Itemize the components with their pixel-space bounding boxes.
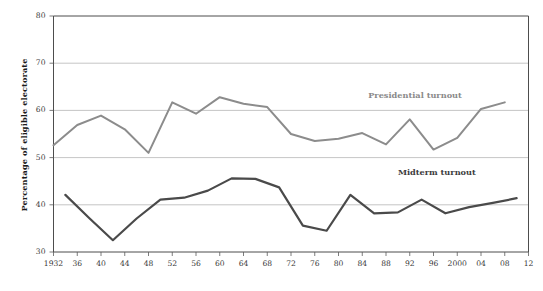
y-tick-label: 30 <box>22 247 46 256</box>
y-tick-label: 70 <box>22 58 46 67</box>
plot-area <box>0 0 543 291</box>
y-tick-label: 80 <box>22 11 46 20</box>
series-label-midterm-turnout: Midterm turnout <box>398 167 476 177</box>
y-tick-label: 40 <box>22 200 46 209</box>
turnout-line-chart: Percentage of eligible electorate 304050… <box>0 0 543 291</box>
series-line-presidential-turnout <box>54 97 505 153</box>
series-label-presidential-turnout: Presidential turnout <box>368 90 462 100</box>
y-tick-label: 60 <box>22 105 46 114</box>
y-tick-label: 50 <box>22 153 46 162</box>
x-tick-label: 12 <box>509 259 543 268</box>
series-line-midterm-turnout <box>65 178 516 240</box>
